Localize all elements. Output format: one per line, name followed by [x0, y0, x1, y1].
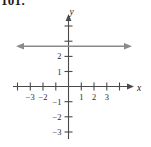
figure-container: 101.: [0, 0, 151, 147]
x-tick-label-neg-2: −2: [38, 92, 47, 102]
plotted-line-y-equals-3: [16, 43, 132, 50]
y-tick-label-pos-2: 2: [57, 51, 61, 61]
y-tick-label-neg-3: −3: [52, 127, 61, 137]
x-tick-label-pos-1: 1: [79, 92, 83, 102]
plot-line-left-arrow-icon: [16, 43, 24, 50]
y-tick-label-pos-1: 1: [57, 67, 61, 77]
y-tick-label-neg-2: −2: [52, 112, 61, 122]
y-tick-label-neg-1: −1: [52, 97, 61, 107]
x-tick-label-pos-3: 3: [105, 92, 109, 102]
y-axis-name-label: y: [68, 7, 74, 17]
x-axis-name-label: x: [136, 83, 142, 93]
coordinate-plane-graph: −3 −2 1 2 3 2 1 −1 −2 −3 x y: [0, 0, 151, 147]
x-axis-arrow-icon: [127, 84, 134, 90]
x-tick-label-pos-2: 2: [92, 92, 96, 102]
x-tick-label-neg-3: −3: [26, 92, 35, 102]
plot-line-right-arrow-icon: [124, 43, 132, 50]
